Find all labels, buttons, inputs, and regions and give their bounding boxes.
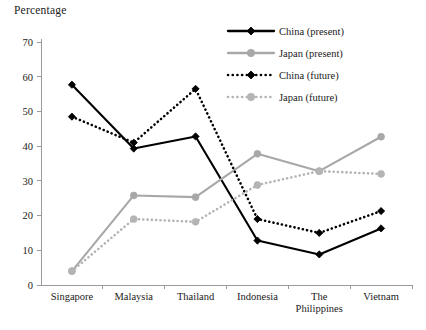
legend-entry[interactable]: Japan (future) xyxy=(228,92,338,104)
line-chart: Percentage 010203040506070 SingaporeMala… xyxy=(0,0,426,330)
x-axis: SingaporeMalaysiaThailandIndonesiaThePhi… xyxy=(41,285,412,314)
y-axis-tick-label: 30 xyxy=(23,176,34,187)
data-point-marker xyxy=(254,215,261,222)
data-point-marker xyxy=(254,150,261,157)
data-point-marker xyxy=(378,133,385,140)
y-axis-tick-label: 0 xyxy=(28,280,33,291)
data-point-marker xyxy=(68,113,75,120)
data-point-marker xyxy=(377,207,384,214)
legend-label: China (present) xyxy=(279,26,345,38)
chart-legend: China (present)Japan (present)China (fut… xyxy=(228,26,345,104)
data-point-marker xyxy=(69,268,76,275)
data-point-marker xyxy=(377,225,384,232)
data-point-marker xyxy=(247,49,254,56)
chart-series xyxy=(69,133,385,274)
chart-plot-area: 010203040506070 SingaporeMalaysiaThailan… xyxy=(0,0,426,330)
series-line xyxy=(72,89,381,233)
chart-series xyxy=(68,81,384,258)
legend-entry[interactable]: China (present) xyxy=(228,26,345,38)
data-point-marker xyxy=(247,27,255,35)
legend-entry[interactable]: China (future) xyxy=(228,70,339,82)
x-axis-category-label: Philippines xyxy=(296,303,343,314)
legend-label: Japan (future) xyxy=(279,92,338,104)
x-axis-category-label: Indonesia xyxy=(237,291,278,302)
y-axis-tick-label: 40 xyxy=(23,141,34,152)
legend-label: China (future) xyxy=(279,70,339,82)
data-point-marker xyxy=(192,194,199,201)
data-point-marker xyxy=(378,171,385,178)
y-axis-tick-label: 60 xyxy=(23,72,34,83)
data-point-marker xyxy=(192,218,199,225)
data-point-marker xyxy=(254,182,261,189)
legend-label: Japan (present) xyxy=(279,48,343,60)
x-axis-category-label: Singapore xyxy=(51,291,94,302)
data-point-marker xyxy=(316,251,323,258)
data-point-marker xyxy=(247,71,255,79)
x-axis-category-label: Vietnam xyxy=(363,291,399,302)
series-layer xyxy=(68,81,384,274)
y-axis: 010203040506070 xyxy=(23,37,42,291)
data-point-marker xyxy=(316,229,323,236)
y-axis-tick-label: 70 xyxy=(23,37,34,48)
data-point-marker xyxy=(130,192,137,199)
data-point-marker xyxy=(130,216,137,223)
data-point-marker xyxy=(247,93,254,100)
y-axis-tick-label: 10 xyxy=(23,245,34,256)
y-axis-tick-label: 50 xyxy=(23,106,34,117)
legend-entry[interactable]: Japan (present) xyxy=(228,48,343,60)
chart-series xyxy=(69,168,385,275)
series-line xyxy=(72,171,381,271)
x-axis-category-label: Thailand xyxy=(177,291,215,302)
y-axis-tick-label: 20 xyxy=(23,210,34,221)
x-axis-category-label: Malaysia xyxy=(115,291,154,302)
series-line xyxy=(72,85,381,255)
x-axis-category-label: The xyxy=(311,291,328,302)
data-point-marker xyxy=(316,168,323,175)
